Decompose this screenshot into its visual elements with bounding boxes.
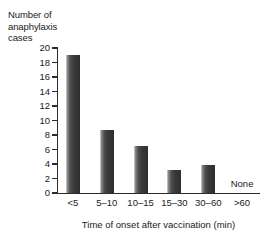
x-axis-tick-label: 5–10 <box>96 197 117 208</box>
y-axis-tick <box>52 192 57 193</box>
y-axis-tick <box>52 47 57 48</box>
y-axis-tick <box>52 134 57 135</box>
y-axis-tick-label: 10 <box>10 116 50 126</box>
x-axis-tick-label: 10–15 <box>127 197 153 208</box>
y-axis-tick-label: 20 <box>10 43 50 53</box>
bar-chart: Number of anaphylaxis cases 024681012141… <box>0 0 268 236</box>
x-axis-tick-label: 30–60 <box>195 197 221 208</box>
y-axis-line <box>57 47 58 194</box>
y-axis-tick <box>52 163 57 164</box>
bar <box>201 165 215 193</box>
y-axis-tick <box>52 149 57 150</box>
y-axis-tick-label: 16 <box>10 72 50 82</box>
y-axis-tick <box>52 120 57 121</box>
y-axis-tick <box>52 91 57 92</box>
y-axis-title-line-2: anaphylaxis <box>8 21 57 33</box>
y-axis-tick <box>52 105 57 106</box>
y-axis-title: Number of anaphylaxis cases <box>8 9 57 44</box>
y-axis-tick-label: 18 <box>10 58 50 68</box>
y-axis-tick <box>52 62 57 63</box>
bar <box>134 146 148 193</box>
x-axis-line <box>57 193 260 194</box>
bar <box>66 55 80 193</box>
y-axis-tick-label: 4 <box>10 159 50 169</box>
y-axis-tick-label: 8 <box>10 130 50 140</box>
y-axis-tick-label: 12 <box>10 101 50 111</box>
bar <box>100 130 114 193</box>
x-axis-tick-label: <5 <box>67 197 78 208</box>
x-axis-title: Time of onset after vaccination (min) <box>57 219 260 230</box>
y-axis-tick-label: 2 <box>10 174 50 184</box>
x-axis-tick-label: >60 <box>234 197 250 208</box>
y-axis-tick <box>52 76 57 77</box>
y-axis-tick-label: 14 <box>10 87 50 97</box>
x-axis-tick-label: 15–30 <box>161 197 187 208</box>
y-axis-tick-label: 6 <box>10 145 50 155</box>
y-axis-tick <box>52 178 57 179</box>
y-axis-tick-label: 0 <box>10 188 50 198</box>
y-axis-title-line-1: Number of <box>8 9 57 21</box>
none-annotation-label: None <box>231 178 254 189</box>
bar <box>167 170 181 193</box>
